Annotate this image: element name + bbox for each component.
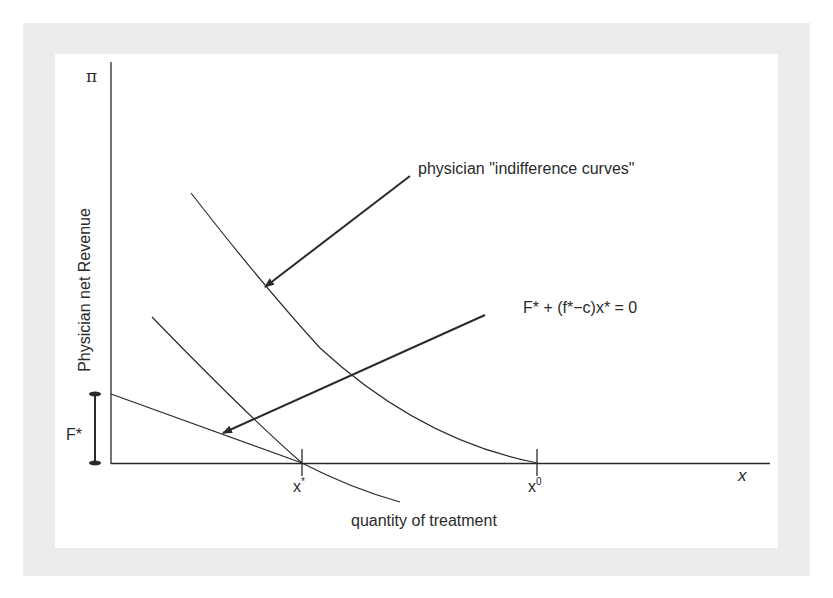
arrow-indifference	[265, 176, 410, 287]
budget-line	[111, 394, 302, 463]
x-axis-symbol: x	[738, 466, 747, 486]
fstar-bracket	[89, 392, 101, 466]
indifference-curve-upper	[191, 193, 537, 463]
y-axis-symbol: π	[86, 66, 97, 86]
y-axis-label: Physician net Revenue	[76, 208, 94, 372]
x-axis-label: quantity of treatment	[351, 512, 497, 530]
annotation-indifference: physician "indifference curves"	[418, 160, 635, 178]
diagram-canvas	[0, 0, 833, 598]
annotation-constraint: F* + (f*−c)x* = 0	[523, 299, 637, 317]
arrow-constraint	[223, 315, 485, 433]
tick-label-x0: x0	[528, 478, 542, 496]
fstar-label: F*	[66, 426, 82, 444]
tick-label-xstar: x*	[293, 478, 305, 496]
